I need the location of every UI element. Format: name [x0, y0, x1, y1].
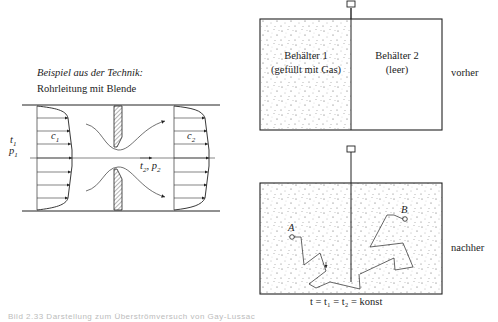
label-after: nachher [451, 242, 484, 253]
container1-label: Behälter 1 (gefüllt mit Gas) [261, 49, 351, 77]
heading-example: Beispiel aus der Technik: [37, 67, 143, 78]
label-point-a: A [288, 222, 294, 233]
equation-isothermal: t = t₁ = t₂ = konst [310, 296, 382, 307]
label-t2-p2: t2, p2 [140, 160, 160, 174]
pipe-diagram [22, 105, 220, 211]
container2-label: Behälter 2 (leer) [352, 49, 442, 77]
container-after [260, 146, 442, 294]
figure-caption: Bild 2.33 Darstellung zum Überströmversu… [8, 312, 255, 321]
label-p1: p1 [9, 145, 18, 159]
label-c1: c1 [51, 130, 59, 144]
label-c2: c2 [187, 130, 195, 144]
label-before: vorher [451, 67, 478, 78]
subheading-pipe: Rohrleitung mit Blende [37, 83, 136, 94]
label-point-b: B [401, 204, 407, 215]
